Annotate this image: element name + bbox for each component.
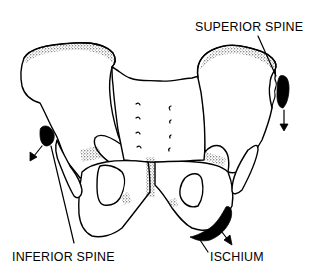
ischium-leader	[200, 240, 208, 252]
inferior-spine-label: INFERIOR SPINE	[12, 250, 115, 264]
superior-spine-arrow	[280, 110, 288, 131]
pelvis-diagram	[0, 0, 329, 275]
ischium-label: ISCHIUM	[210, 250, 264, 264]
superior-spine-label: SUPERIOR SPINE	[195, 20, 303, 34]
superior-spine-fragment	[277, 76, 289, 108]
ischium-arrow	[222, 232, 232, 245]
sacrum	[112, 67, 205, 162]
inferior-spine-arrow	[30, 146, 42, 161]
pubic-symphysis	[146, 157, 155, 197]
